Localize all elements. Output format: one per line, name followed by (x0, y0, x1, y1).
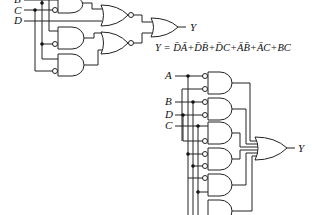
circuit-2: A B D C (164, 69, 306, 215)
input-label-b: B (165, 95, 172, 107)
and-gate (208, 148, 232, 170)
nor-gate (101, 32, 128, 54)
and-gate (208, 72, 232, 94)
output-label-y: Y (298, 142, 306, 154)
input-label-d: D (13, 14, 22, 26)
and-gate (208, 200, 232, 215)
or-gate (255, 137, 287, 160)
and-gate (58, 0, 83, 13)
inversion-bubble (53, 8, 58, 13)
or-gate (151, 18, 178, 37)
nor-gate (101, 5, 128, 26)
and-gate (208, 122, 232, 144)
and-gate (208, 98, 232, 120)
boolean-equation: Y = D̄Ā+D̄B̄+D̄C+ĀB̄+ĀC+BC (155, 42, 292, 53)
input-label-c: C (165, 119, 173, 131)
circuit-1: B C D (13, 0, 292, 76)
input-label-a: A (164, 69, 172, 81)
and-gate (58, 27, 84, 49)
and-gate (208, 174, 232, 196)
and-gate (58, 54, 84, 76)
logic-diagram: B C D (0, 0, 312, 215)
output-label-y: Y (190, 21, 198, 33)
